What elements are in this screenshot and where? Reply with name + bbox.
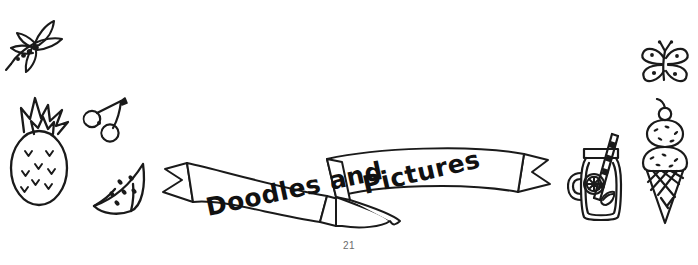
ribbon-banner: Doodles and Pictures bbox=[160, 144, 552, 242]
page-number: 21 bbox=[0, 240, 698, 251]
watermelon-icon bbox=[84, 158, 154, 222]
cherries-icon bbox=[80, 92, 132, 144]
ice-cream-icon bbox=[634, 98, 696, 228]
doodle-page: Doodles and Pictures 21 bbox=[0, 0, 698, 265]
mason-jar-icon bbox=[567, 122, 629, 228]
butterfly-icon bbox=[638, 38, 692, 88]
pineapple-icon bbox=[4, 88, 74, 210]
dragonfly-icon bbox=[2, 12, 68, 74]
